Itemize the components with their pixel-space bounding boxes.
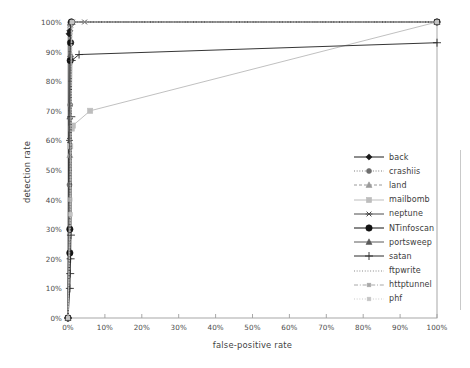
marker-square — [69, 213, 73, 217]
legend-item-land[interactable]: land — [352, 178, 458, 192]
y-tick-label: 40% — [28, 196, 62, 205]
legend-key-back-icon — [352, 150, 386, 164]
legend-item-neptune[interactable]: neptune — [352, 207, 458, 221]
x-axis-title: false-positive rate — [103, 340, 403, 350]
y-tick-label: 60% — [28, 136, 62, 145]
marker-square — [366, 197, 371, 202]
marker-square — [68, 198, 72, 202]
legend-label: mailbomb — [386, 195, 430, 204]
y-tick-label: 80% — [28, 77, 62, 86]
y-axis-title: detection rate — [22, 141, 32, 203]
legend-item-ftpwrite[interactable]: ftpwrite — [352, 264, 458, 278]
legend-label: land — [386, 181, 407, 190]
legend-item-mailbomb[interactable]: mailbomb — [352, 193, 458, 207]
legend-item-back[interactable]: back — [352, 150, 458, 164]
legend-label: phf — [386, 294, 402, 303]
legend-item-crashiis[interactable]: crashiis — [352, 164, 458, 178]
marker-square — [367, 297, 371, 301]
roc-chart-figure: 0%10%20%30%40%50%60%70%80%90%100% 0%10%2… — [0, 0, 470, 368]
marker-plus — [66, 270, 74, 278]
marker-plus — [365, 252, 373, 260]
x-tick-label: 0% — [48, 323, 88, 332]
x-tick-label: 90% — [380, 323, 420, 332]
legend-item-phf[interactable]: phf — [352, 292, 458, 306]
y-tick-label: 30% — [28, 225, 62, 234]
legend-key-httptunnel-icon — [352, 278, 386, 292]
legend-label: neptune — [386, 209, 423, 218]
legend-key-ntinfoscan-icon — [352, 221, 386, 235]
y-tick-label: 70% — [28, 107, 62, 116]
y-tick-label: 10% — [28, 284, 62, 293]
legend-label: httptunnel — [386, 280, 432, 289]
x-tick-label: 100% — [417, 323, 457, 332]
legend-label: satan — [386, 252, 412, 261]
marker-square — [88, 108, 93, 113]
legend-key-crashiis-icon — [352, 164, 386, 178]
x-tick-label: 20% — [122, 323, 162, 332]
legend-key-land-icon — [352, 178, 386, 192]
x-tick-label: 10% — [85, 323, 125, 332]
y-tick-label: 0% — [28, 314, 62, 323]
legend-item-ntinfoscan[interactable]: NTinfoscan — [352, 221, 458, 235]
marker-square — [70, 20, 74, 24]
y-tick-label: 20% — [28, 255, 62, 264]
marker-circle — [367, 169, 372, 174]
legend-key-ftpwrite-icon — [352, 264, 386, 278]
legend-label: ftpwrite — [386, 266, 421, 275]
x-tick-label: 50% — [233, 323, 273, 332]
legend-key-satan-icon — [352, 249, 386, 263]
y-tick-label: 90% — [28, 48, 62, 57]
marker-square — [367, 283, 371, 287]
x-tick-label: 30% — [159, 323, 199, 332]
legend-label: back — [386, 153, 408, 162]
y-tick-label: 100% — [28, 18, 62, 27]
legend-label: portsweep — [386, 238, 432, 247]
x-tick-label: 70% — [306, 323, 346, 332]
legend-item-httptunnel[interactable]: httptunnel — [352, 278, 458, 292]
legend-label: NTinfoscan — [386, 224, 434, 233]
legend-label: crashiis — [386, 167, 420, 176]
marker-plus — [66, 284, 74, 292]
marker-square — [66, 316, 70, 320]
x-tick-label: 40% — [196, 323, 236, 332]
x-tick-label: 60% — [269, 323, 309, 332]
marker-circle — [366, 225, 372, 231]
x-tick-label: 80% — [343, 323, 383, 332]
legend-key-mailbomb-icon — [352, 193, 386, 207]
marker-star — [366, 211, 373, 216]
legend-item-satan[interactable]: satan — [352, 249, 458, 263]
legend-divider — [460, 150, 461, 310]
marker-plus — [433, 39, 441, 47]
marker-square — [435, 20, 439, 24]
chart-legend: backcrashiislandmailbombneptuneNTinfosca… — [352, 150, 458, 306]
legend-item-portsweep[interactable]: portsweep — [352, 235, 458, 249]
marker-diamond — [366, 154, 372, 160]
legend-key-neptune-icon — [352, 207, 386, 221]
legend-key-portsweep-icon — [352, 235, 386, 249]
legend-key-phf-icon — [352, 292, 386, 306]
y-tick-label: 50% — [28, 166, 62, 175]
